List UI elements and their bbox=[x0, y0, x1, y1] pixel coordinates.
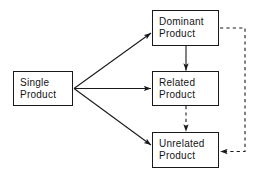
edge-single-to-dominant bbox=[74, 33, 151, 89]
node-unrelated-product-line2: Product bbox=[159, 150, 195, 162]
node-dominant-product[interactable]: Dominant Product bbox=[152, 10, 219, 46]
node-single-product-line1: Single bbox=[20, 77, 49, 89]
node-unrelated-product[interactable]: Unrelated Product bbox=[152, 132, 219, 168]
node-dominant-product-line2: Product bbox=[159, 28, 195, 40]
node-single-product[interactable]: Single Product bbox=[13, 71, 73, 106]
edge-single-to-unrelated bbox=[74, 89, 151, 146]
node-single-product-line2: Product bbox=[20, 89, 56, 101]
node-dominant-product-line1: Dominant bbox=[159, 16, 204, 28]
edge-dominant-to-unrelated bbox=[220, 28, 245, 152]
node-unrelated-product-line1: Unrelated bbox=[159, 138, 205, 150]
node-related-product-line1: Related bbox=[159, 77, 195, 89]
node-related-product[interactable]: Related Product bbox=[152, 71, 219, 106]
diagram-canvas: Single Product Dominant Product Related … bbox=[0, 0, 263, 180]
node-related-product-line2: Product bbox=[159, 89, 195, 101]
